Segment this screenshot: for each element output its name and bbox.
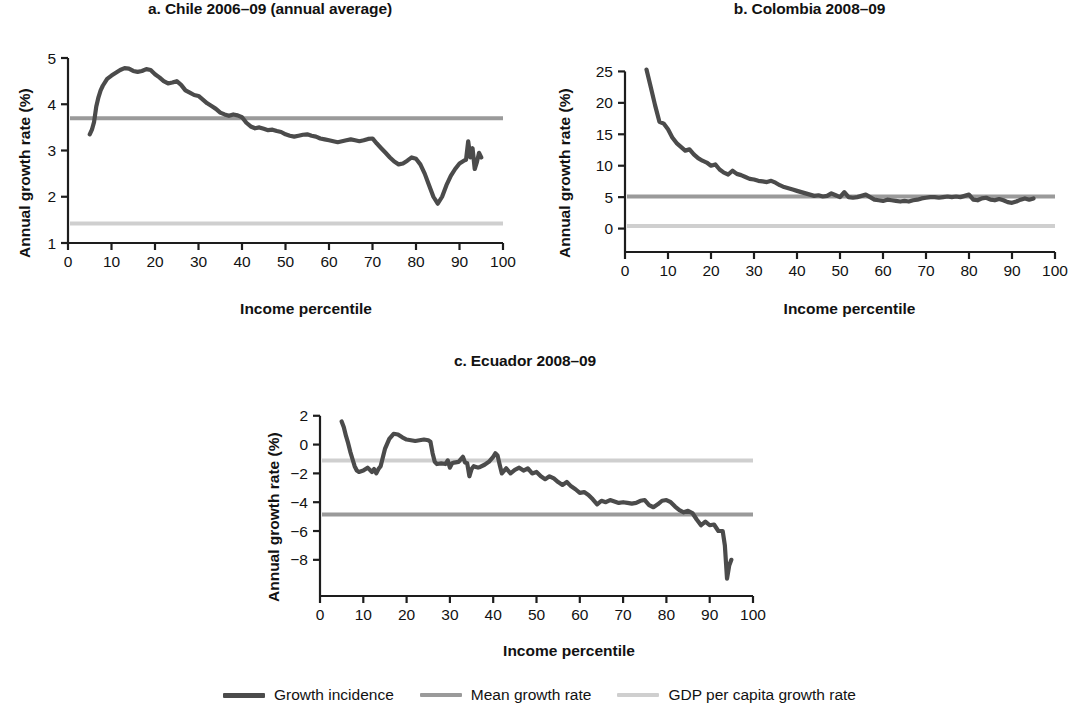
panel-a-x-tick-label: 50	[277, 253, 295, 270]
panel-a-x-tick-label: 30	[190, 253, 208, 270]
panel-ecuador: c. Ecuador 2008–09 Annual growth rate (%…	[255, 352, 795, 682]
panel-a-x-tick-label: 70	[364, 253, 382, 270]
panel-a-y-tick-label: 1	[47, 235, 56, 252]
panel-ecuador-x-axis-label: Income percentile	[255, 642, 839, 660]
panel-c-x-tick-label: 40	[485, 606, 503, 623]
panel-c-x-tick-label: 60	[571, 606, 589, 623]
panel-c-y-tick-label: −2	[290, 465, 308, 482]
panel-a-y-tick-label: 5	[47, 50, 56, 67]
panel-c-x-tick-label: 0	[316, 606, 325, 623]
panel-a-x-tick-label: 20	[146, 253, 164, 270]
panel-b-x-tick-label: 50	[831, 262, 849, 279]
legend-label: GDP per capita growth rate	[668, 686, 856, 704]
panel-b-x-tick-label: 10	[659, 262, 677, 279]
legend-item: Growth incidence	[223, 686, 394, 704]
panel-b-x-tick-label: 70	[917, 262, 935, 279]
panel-a-x-tick-label: 60	[320, 253, 338, 270]
panel-b-y-tick-label: 5	[604, 189, 613, 206]
panel-b-y-tick-label: 20	[596, 94, 614, 111]
growth-incidence-curves-figure: a. Chile 2006–09 (annual average) Annual…	[0, 0, 1079, 718]
legend: Growth incidenceMean growth rateGDP per …	[0, 686, 1079, 704]
panel-chile-plot: 123450102030405060708090100	[0, 0, 540, 300]
panel-a-x-tick-label: 40	[233, 253, 251, 270]
panel-b-x-tick-label: 0	[621, 262, 630, 279]
panel-b-y-tick-label: 15	[596, 126, 613, 143]
panel-a-x-tick-label: 80	[407, 253, 425, 270]
panel-b-y-tick-label: 10	[596, 157, 614, 174]
panel-a-x-tick-label: 0	[64, 253, 73, 270]
legend-label: Mean growth rate	[471, 686, 592, 704]
panel-c-growth-incidence-curve	[342, 422, 732, 579]
panel-a-x-tick-label: 90	[451, 253, 469, 270]
panel-colombia: b. Colombia 2008–09 Annual growth rate (…	[540, 0, 1079, 340]
panel-c-x-tick-label: 20	[398, 606, 416, 623]
panel-b-x-tick-label: 100	[1042, 262, 1068, 279]
legend-label: Growth incidence	[274, 686, 394, 704]
panel-c-y-tick-label: −8	[290, 551, 308, 568]
panel-c-x-tick-label: 50	[528, 606, 546, 623]
panel-b-y-tick-label: 25	[596, 63, 613, 80]
panel-a-x-tick-label: 100	[490, 253, 516, 270]
panel-c-x-tick-label: 10	[355, 606, 373, 623]
panel-b-x-tick-label: 30	[745, 262, 763, 279]
panel-chile: a. Chile 2006–09 (annual average) Annual…	[0, 0, 540, 340]
panel-ecuador-plot: 20−2−4−6−80102030405060708090100	[255, 352, 795, 644]
panel-a-y-tick-label: 2	[47, 188, 56, 205]
panel-a-growth-incidence-curve	[90, 68, 482, 204]
legend-item: Mean growth rate	[420, 686, 592, 704]
legend-item: GDP per capita growth rate	[617, 686, 856, 704]
panel-a-y-tick-label: 3	[47, 142, 56, 159]
panel-c-y-tick-label: 2	[299, 407, 308, 424]
panel-colombia-x-axis-label: Income percentile	[540, 300, 1079, 318]
panel-c-x-tick-label: 30	[441, 606, 459, 623]
panel-a-x-tick-label: 10	[103, 253, 121, 270]
panel-b-x-tick-label: 60	[874, 262, 892, 279]
panel-b-y-tick-label: 0	[604, 220, 613, 237]
panel-c-y-tick-label: −6	[290, 523, 308, 540]
panel-b-x-tick-label: 20	[702, 262, 720, 279]
panel-c-x-tick-label: 70	[614, 606, 632, 623]
panel-b-x-tick-label: 80	[960, 262, 978, 279]
panel-c-x-tick-label: 100	[740, 606, 766, 623]
panel-b-x-tick-label: 40	[788, 262, 806, 279]
panel-colombia-plot: 05101520250102030405060708090100	[540, 0, 1079, 300]
panel-c-x-tick-label: 90	[701, 606, 719, 623]
panel-chile-x-axis-label: Income percentile	[0, 300, 576, 318]
panel-c-x-tick-label: 80	[658, 606, 676, 623]
legend-swatch-line-icon	[420, 693, 462, 697]
panel-b-growth-incidence-curve	[647, 70, 1034, 203]
panel-c-y-tick-label: 0	[299, 436, 308, 453]
panel-a-y-tick-label: 4	[47, 96, 56, 113]
legend-swatch-line-icon	[223, 693, 265, 698]
legend-swatch-line-icon	[617, 693, 659, 697]
panel-c-y-tick-label: −4	[290, 494, 308, 511]
panel-b-x-tick-label: 90	[1003, 262, 1021, 279]
